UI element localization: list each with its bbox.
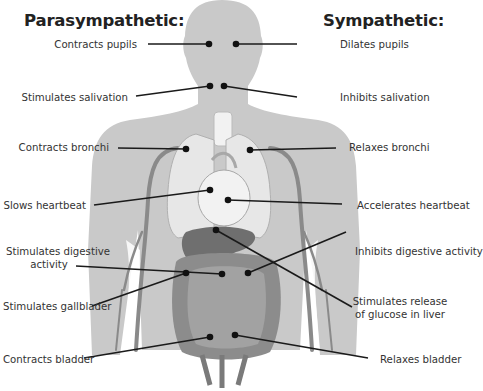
- dot-inhibits-salivation: [221, 83, 228, 90]
- dot-contracts-pupils: [206, 41, 213, 48]
- dot-inhibits-digestive: [245, 270, 252, 277]
- label-contracts-bronchi: Contracts bronchi: [19, 141, 109, 154]
- label-relaxes-bronchi: Relaxes bronchi: [349, 141, 430, 154]
- dot-glucose-liver: [213, 227, 220, 234]
- dot-slows-heartbeat: [207, 187, 214, 194]
- label-inhibits-digestive-activity: Inhibits digestive activity: [355, 245, 483, 258]
- dot-stimulates-digestive: [219, 271, 226, 278]
- parasympathetic-heading: Parasympathetic:: [24, 11, 184, 30]
- label-accelerates-heartbeat: Accelerates heartbeat: [357, 199, 470, 212]
- dot-contracts-bladder: [207, 334, 214, 341]
- label-stimulates-gallbladder: Stimulates gallblader: [3, 300, 111, 313]
- dot-stimulates-salivation: [207, 83, 214, 90]
- sympathetic-heading: Sympathetic:: [323, 11, 444, 30]
- label-stimulates-salivation: Stimulates salivation: [21, 91, 128, 104]
- dot-relaxes-bronchi: [247, 147, 254, 154]
- dot-dilates-pupils: [233, 41, 240, 48]
- dot-contracts-bronchi: [183, 146, 190, 153]
- dot-relaxes-bladder: [232, 332, 239, 339]
- label-dilates-pupils: Dilates pupils: [340, 38, 409, 51]
- label-slows-heartbeat: Slows heartbeat: [3, 199, 86, 212]
- heart: [198, 170, 250, 226]
- dot-accelerates-heartbeat: [225, 197, 232, 204]
- label-contracts-pupils: Contracts pupils: [54, 38, 137, 51]
- label-inhibits-salivation: Inhibits salivation: [340, 91, 430, 104]
- label-glucose-release-liver: Stimulates release of glucose in liver: [352, 295, 448, 321]
- label-relaxes-bladder: Relaxes bladder: [380, 353, 461, 366]
- label-stimulates-digestive-activity: Stimulates digestive activity: [6, 245, 92, 271]
- dot-stimulates-gallbladder: [183, 270, 190, 277]
- label-contracts-bladder: Contracts bladder: [3, 353, 94, 366]
